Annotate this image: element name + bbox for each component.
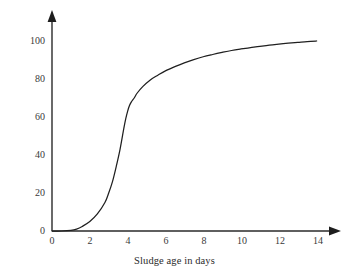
x-tick-14: 14 (313, 236, 323, 246)
x-tick-2: 2 (88, 236, 93, 246)
x-tick-4: 4 (126, 236, 131, 246)
y-tick-80: 80 (26, 74, 45, 84)
x-tick-10: 10 (237, 236, 247, 246)
x-tick-12: 12 (275, 236, 285, 246)
x-tick-0: 0 (50, 236, 55, 246)
axes-group (48, 10, 341, 235)
y-tick-40: 40 (26, 150, 45, 160)
x-tick-8: 8 (202, 236, 207, 246)
y-axis-arrow-icon (48, 10, 57, 22)
x-axis-title: Sludge age in days (0, 255, 349, 266)
chart-figure: 0 2 4 6 8 10 12 14 0 20 40 60 80 100 Slu… (0, 0, 349, 278)
y-tick-0: 0 (26, 226, 45, 236)
y-tick-100: 100 (22, 36, 45, 46)
nitrification-curve (52, 41, 317, 231)
y-tick-60: 60 (26, 112, 45, 122)
data-series-group (52, 41, 317, 231)
x-tick-6: 6 (164, 236, 169, 246)
x-axis-arrow-icon (329, 227, 341, 236)
y-tick-20: 20 (26, 188, 45, 198)
